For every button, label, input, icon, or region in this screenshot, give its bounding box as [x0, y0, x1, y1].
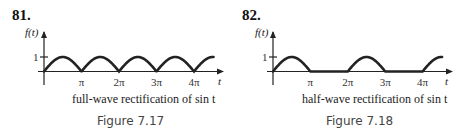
x-tick-label: 3π: [151, 76, 163, 88]
figure-label: Figure 7.17: [97, 114, 164, 128]
y-axis-label: f(t): [255, 26, 269, 39]
y-tick-label-1: 1: [33, 51, 39, 63]
x-tick-label: 2π: [342, 76, 354, 88]
x-axis-label: t: [445, 75, 449, 87]
x-tick-label: 4π: [417, 76, 429, 88]
caption: full-wave rectification of sin t: [72, 92, 216, 106]
x-tick-label: 3π: [380, 76, 392, 88]
x-tick-label: π: [79, 76, 85, 88]
x-axis-label: t: [218, 75, 222, 87]
figures-canvas: 81. f(t) 1 t π2π3π4π full-wave rectifica…: [0, 0, 463, 132]
problem-number: 82.: [242, 7, 261, 23]
x-tick-label: 4π: [188, 76, 200, 88]
problem-number: 81.: [12, 7, 31, 23]
y-axis-label: f(t): [25, 26, 39, 39]
curve-full-wave: [44, 57, 214, 72]
x-tick-label: π: [308, 76, 314, 88]
chart-half-wave: 82. f(t) 1 t π2π3π4π half-wave rectifica…: [242, 7, 452, 128]
chart-full-wave: 81. f(t) 1 t π2π3π4π full-wave rectifica…: [12, 7, 223, 128]
figure-label: Figure 7.18: [326, 114, 393, 128]
x-tick-label: 2π: [113, 76, 125, 88]
y-tick-label-1: 1: [262, 51, 268, 63]
caption: half-wave rectification of sin t: [302, 92, 448, 106]
curve-half-wave: [273, 57, 442, 72]
